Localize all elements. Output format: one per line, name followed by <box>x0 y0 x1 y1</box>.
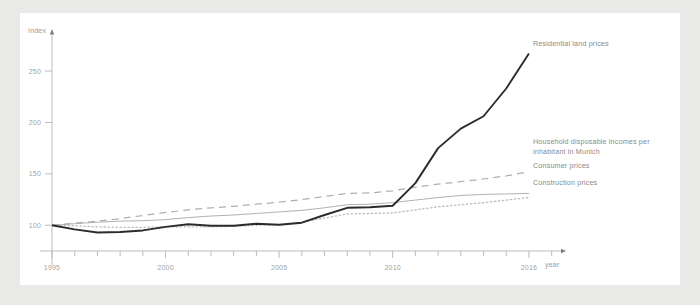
x-axis-tick-label: 2005 <box>271 264 287 271</box>
y-axis-tick-label: 200 <box>29 119 41 126</box>
legend-label-household-line-1: Household disposable incomes per <box>533 137 650 147</box>
y-axis-tick-label: 250 <box>29 68 41 75</box>
legend-label-residential-land-prices: Residential land prices <box>533 39 609 49</box>
series-line-household-disposable-incomes-per-inhabitant-in-munich <box>52 172 529 225</box>
x-axis-tick-label: 2000 <box>157 264 173 271</box>
x-axis-tick-label: 2016 <box>521 264 537 271</box>
y-axis-tick-label: 100 <box>29 222 41 229</box>
chart-card: 10015020025019952000200520102016 Index y… <box>20 13 680 285</box>
y-axis-arrow <box>50 29 54 35</box>
series-line-consumer-prices <box>52 193 529 225</box>
y-axis-title: Index <box>28 27 46 34</box>
screenshot-root: 10015020025019952000200520102016 Index y… <box>0 0 700 305</box>
y-axis-tick-label: 150 <box>29 170 41 177</box>
x-axis-tick-label: 2010 <box>384 264 400 271</box>
legend-label-household-disposable-incomes: Household disposable incomes per inhabit… <box>533 137 650 157</box>
x-axis-tick-label: 1995 <box>44 264 60 271</box>
legend-label-household-line-2: inhabitant in Munich <box>533 147 650 157</box>
chart-area: 10015020025019952000200520102016 Index y… <box>20 13 680 285</box>
x-axis-arrow <box>561 249 566 253</box>
series-line-residential-land-prices <box>52 54 529 233</box>
x-axis-title: year <box>545 261 559 268</box>
legend-label-construction-prices: Construction prices <box>533 178 597 188</box>
legend-label-consumer-prices: Consumer prices <box>533 161 590 171</box>
